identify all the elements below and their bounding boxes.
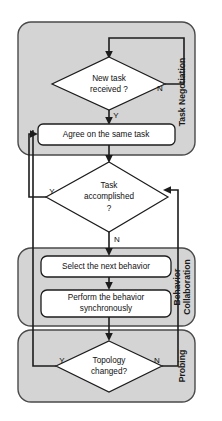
edge-label-task-accomplished-yes: Y bbox=[49, 187, 55, 196]
process-perform-behavior-line1: Perform the behavior bbox=[68, 293, 145, 302]
edge-label-topology-no: N bbox=[154, 356, 160, 365]
group-label-task-negotiation: Task Negotiation bbox=[177, 58, 187, 127]
edge-label-new-task-yes: Y bbox=[113, 111, 119, 120]
decision-new-task-received-line1: New task bbox=[92, 74, 127, 83]
flowchart-diagram: Task Negotiation Behavior Collaboration … bbox=[0, 0, 222, 421]
decision-task-accomplished-line3: ? bbox=[107, 204, 112, 213]
decision-task-accomplished-line2: accomplished bbox=[84, 192, 135, 201]
flowchart-canvas: Task Negotiation Behavior Collaboration … bbox=[0, 0, 222, 421]
edge-label-task-accomplished-no: N bbox=[114, 235, 120, 244]
decision-new-task-received-line2: received ? bbox=[90, 85, 128, 94]
group-label-behavior-collaboration-line2: Collaboration bbox=[182, 259, 192, 314]
process-agree-on-same-task-label: Agree on the same task bbox=[63, 130, 150, 139]
decision-topology-changed-line2: changed? bbox=[91, 367, 127, 376]
arrowhead-into-task-accomplished-right bbox=[163, 186, 171, 194]
decision-topology-changed-line1: Topology bbox=[93, 356, 127, 365]
edge-label-topology-yes: Y bbox=[59, 356, 65, 365]
edge-label-new-task-no: N bbox=[157, 84, 163, 93]
process-select-next-behavior-label: Select the next behavior bbox=[62, 262, 150, 271]
decision-task-accomplished-line1: Task bbox=[101, 181, 119, 190]
process-perform-behavior-line2: synchronously bbox=[80, 304, 133, 313]
